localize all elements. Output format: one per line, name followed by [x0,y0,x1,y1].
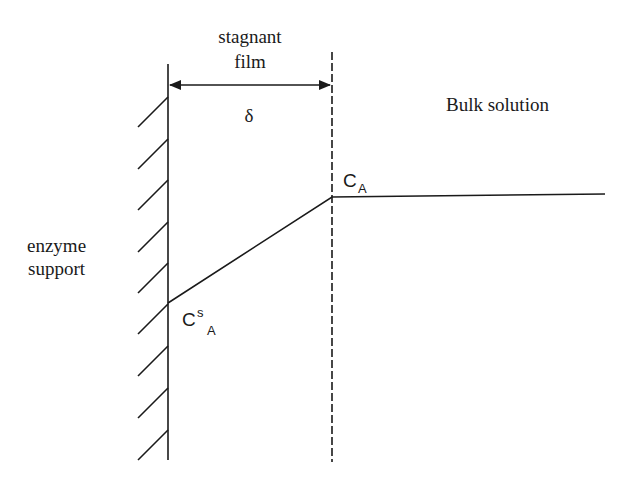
svg-text:A: A [358,181,367,196]
svg-text:C: C [343,170,357,191]
wall-hatching [138,97,168,460]
enzyme-support-label-line1: enzyme [27,235,86,256]
stagnant-film-label-line2: film [234,51,266,72]
delta-symbol: δ [245,105,254,126]
svg-text:C: C [182,309,196,330]
svg-text:s: s [197,305,204,320]
bulk-concentration-label: C A [343,170,367,196]
svg-text:A: A [207,323,216,338]
bulk-solution-label: Bulk solution [446,94,549,115]
enzyme-support-label-line2: support [28,258,86,279]
stagnant-film-label-line1: stagnant [218,26,282,47]
stagnant-film-diagram: stagnant film δ Bulk solution enzyme sup… [0,0,632,491]
concentration-profile-line [168,194,605,303]
surface-concentration-label: C s A [182,305,216,338]
